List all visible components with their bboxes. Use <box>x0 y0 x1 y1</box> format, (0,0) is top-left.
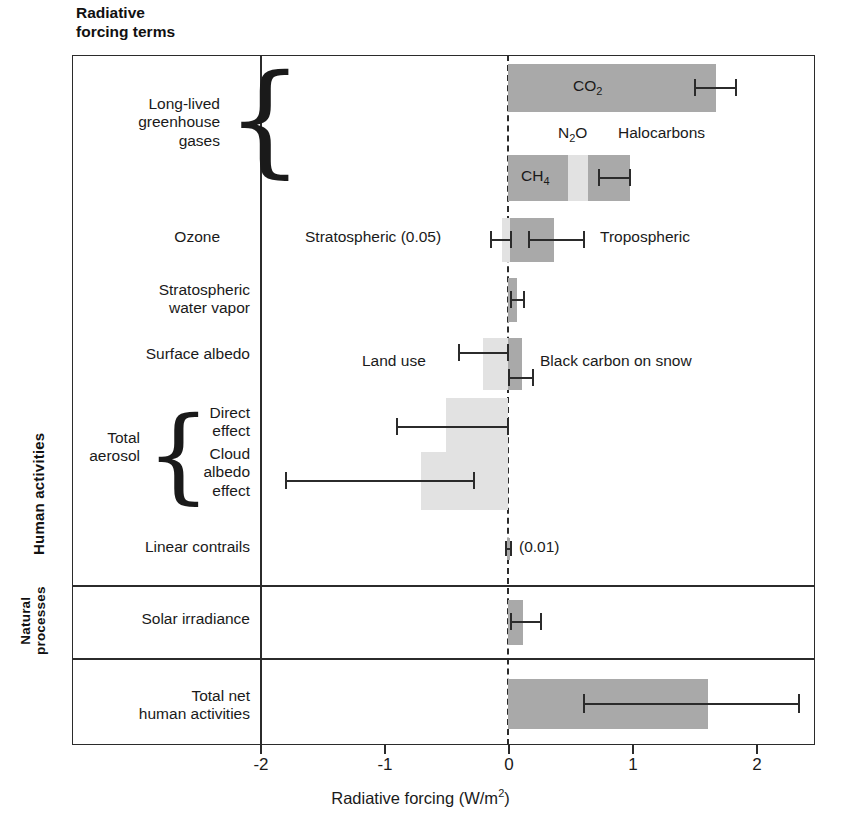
errorbar-cap-halocarbons-low <box>598 169 600 186</box>
errorbar-cap-total-low <box>583 694 585 713</box>
errorbar-cap-land-use-low <box>458 344 460 361</box>
radiative-forcing-chart: Radiative forcing terms Human activities… <box>0 0 841 831</box>
group-label-natural-line-1: Natural <box>18 586 33 655</box>
errorbar-cap-halocarbons-high <box>629 169 631 186</box>
section-divider-total <box>72 658 815 660</box>
row-label-total-aerosol: Total aerosol <box>20 429 140 466</box>
x-tick-1 <box>632 745 634 754</box>
errorbar-cap-swv-low <box>510 291 512 308</box>
title-line-1: Radiative <box>76 4 376 23</box>
errorbar-cap-strat-high <box>510 231 512 248</box>
errorbar-co2 <box>694 87 736 89</box>
errorbar-land-use <box>458 352 509 354</box>
x-axis-title-text: Radiative forcing (W/m <box>331 789 498 807</box>
errorbar-solar-irradiance <box>510 621 542 623</box>
annotation-tropospheric: Tropospheric <box>600 228 690 246</box>
errorbar-cap-land-use-high <box>507 344 509 361</box>
annotation-stratospheric: Stratospheric (0.05) <box>305 228 441 246</box>
errorbar-cap-solar-low <box>510 613 512 630</box>
row-label-long-lived-ghg: Long-lived greenhouse gases <box>60 95 220 150</box>
errorbar-black-carbon <box>508 377 534 379</box>
errorbar-cap-cloud-high <box>473 472 475 489</box>
errorbar-cap-total-high <box>798 694 800 713</box>
row-label-solar-irradiance: Solar irradiance <box>60 610 250 628</box>
row-label-strat-water-vapor: Stratospheric water vapor <box>60 281 250 318</box>
group-label-natural-processes: Natural processes <box>18 586 48 655</box>
bar-land-use <box>483 338 508 390</box>
annotation-ch4: CH4 <box>521 167 550 187</box>
row-label-cloud-albedo-effect: Cloud albedo effect <box>150 445 250 500</box>
errorbar-cap-contrails-high <box>510 541 512 556</box>
row-label-direct-effect: Direct effect <box>150 404 250 441</box>
errorbar-total-net <box>583 703 800 705</box>
errorbar-cap-trop-low <box>528 231 530 248</box>
errorbar-aerosol-cloud <box>285 480 475 482</box>
x-ticklabel-1: 1 <box>628 755 637 775</box>
x-ticklabel--1: -1 <box>377 755 392 775</box>
annotation-contrails-value: (0.01) <box>519 538 560 556</box>
errorbar-cap-swv-high <box>523 291 525 308</box>
errorbar-cap-bc-low <box>508 369 510 386</box>
errorbar-ozone-tropospheric <box>528 239 584 241</box>
x-axis-title-tail: ) <box>504 789 510 807</box>
bar-co2 <box>508 64 716 112</box>
row-label-linear-contrails: Linear contrails <box>60 538 250 556</box>
errorbar-cap-co2-high <box>735 79 737 96</box>
group-label-natural-line-2: processes <box>33 586 48 655</box>
x-tick-0 <box>508 745 510 754</box>
errorbar-cap-direct-high <box>507 418 509 435</box>
bar-n2o <box>568 155 588 201</box>
row-label-surface-albedo: Surface albedo <box>60 345 250 363</box>
bar-aerosol-direct-effect <box>446 398 508 452</box>
errorbar-aerosol-direct <box>396 426 509 428</box>
x-axis-title: Radiative forcing (W/m2) <box>0 787 841 808</box>
x-ticklabel--2: -2 <box>253 755 268 775</box>
errorbar-cap-direct-low <box>396 418 398 435</box>
row-label-ozone: Ozone <box>60 228 220 246</box>
page-title: Radiative forcing terms <box>76 4 376 42</box>
errorbar-cap-contrails-low <box>505 541 507 556</box>
x-ticklabel-0: 0 <box>504 755 513 775</box>
errorbar-cap-co2-low <box>694 79 696 96</box>
errorbar-cap-trop-high <box>583 231 585 248</box>
x-tick--1 <box>384 745 386 754</box>
brace-long-lived-ghg: { <box>226 58 304 180</box>
errorbar-cap-bc-high <box>532 369 534 386</box>
bar-black-carbon-on-snow <box>508 338 522 390</box>
annotation-black-carbon: Black carbon on snow <box>540 352 692 370</box>
errorbar-halocarbons <box>598 177 630 179</box>
errorbar-cap-solar-high <box>540 613 542 630</box>
annotation-halocarbons: Halocarbons <box>618 124 705 142</box>
annotation-co2: CO2 <box>573 77 602 97</box>
x-tick-2 <box>756 745 758 754</box>
x-ticklabel-2: 2 <box>752 755 761 775</box>
section-divider-natural <box>72 585 815 587</box>
annotation-n2o: N2O <box>558 124 587 144</box>
title-line-2: forcing terms <box>76 23 376 42</box>
annotation-land-use: Land use <box>362 352 426 370</box>
errorbar-cap-strat-low <box>490 231 492 248</box>
errorbar-cap-cloud-low <box>285 472 287 489</box>
errorbar-ozone-stratospheric <box>490 239 512 241</box>
x-tick--2 <box>260 745 262 754</box>
row-label-total-net: Total net human activities <box>40 687 250 724</box>
